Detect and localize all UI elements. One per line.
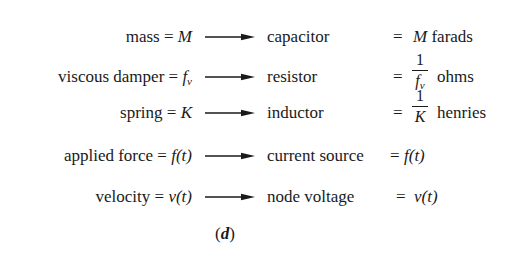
electrical-value: v(t) (414, 182, 438, 212)
mechanical-symbol: v(t) (168, 187, 192, 206)
mechanical-label: viscous damper = (58, 67, 182, 86)
electrical-element: current source (267, 141, 364, 171)
equals-sign: = (393, 22, 403, 52)
mechanical-label: spring = (120, 103, 181, 122)
mechanical-subscript: v (187, 75, 192, 87)
equals-sign: = (390, 141, 400, 171)
equals-sign: = (393, 98, 403, 128)
mechanical-quantity: viscous damper = fv (58, 62, 192, 96)
fraction-numerator: 1 (412, 88, 428, 107)
value-symbol: v(t) (414, 187, 438, 206)
value-unit: farads (427, 27, 473, 46)
mechanical-symbol: M (178, 27, 192, 46)
caption-letter: d (221, 224, 230, 243)
figure-caption: (d) (215, 222, 235, 246)
electrical-element: inductor (267, 98, 324, 128)
row-velocity: velocity = v(t) node voltage = v(t) (0, 182, 514, 212)
mechanical-symbol: f(t) (171, 146, 192, 165)
electrical-element: node voltage (267, 182, 354, 212)
mechanical-quantity: spring = K (120, 98, 192, 128)
right-arrow-icon (205, 33, 255, 41)
mechanical-quantity: mass = M (126, 22, 192, 52)
row-applied-force: applied force = f(t) current source = f(… (0, 141, 514, 171)
mechanical-label: mass = (126, 27, 178, 46)
electrical-value: M farads (413, 22, 473, 52)
mechanical-label: applied force = (64, 146, 171, 165)
mechanical-label: velocity = (96, 187, 169, 206)
electrical-value: f(t) (404, 141, 425, 171)
fraction-denominator: K (412, 107, 428, 125)
right-arrow-icon (205, 109, 255, 117)
row-mass: mass = M capacitor = M farads (0, 22, 514, 52)
value-unit: ohms (437, 62, 474, 92)
right-arrow-icon (205, 152, 255, 160)
mechanical-symbol: K (181, 103, 192, 122)
electrical-element: capacitor (267, 22, 329, 52)
value-unit: henries (437, 98, 486, 128)
equals-sign: = (393, 62, 403, 92)
value-symbol: M (413, 27, 427, 46)
electrical-element: resistor (267, 62, 317, 92)
value-symbol: f(t) (404, 146, 425, 165)
fraction: 1 fv (412, 52, 428, 91)
fraction: 1 K (412, 88, 428, 125)
right-arrow-icon (205, 73, 255, 81)
row-viscous-damper: viscous damper = fv resistor = 1 fv ohms (0, 62, 514, 92)
fraction-numerator: 1 (412, 52, 428, 71)
equals-sign: = (396, 182, 406, 212)
right-arrow-icon (205, 193, 255, 201)
row-spring: spring = K inductor = 1 K henries (0, 98, 514, 128)
mechanical-quantity: applied force = f(t) (64, 141, 192, 171)
caption-close-paren: ) (229, 224, 235, 243)
mechanical-quantity: velocity = v(t) (96, 182, 192, 212)
